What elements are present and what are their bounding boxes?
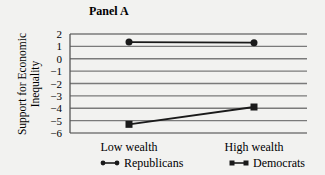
- chart: Panel A Support for Economic Inequality …: [0, 0, 325, 175]
- data-point-republicans: [251, 39, 258, 46]
- chart-title: Panel A: [89, 4, 129, 18]
- legend-marker-square: [230, 161, 235, 166]
- data-point-democrats: [126, 121, 133, 128]
- legend-label-republicans: Republicans: [124, 156, 184, 170]
- x-tick-label: High wealth: [225, 140, 284, 154]
- legend-marker-square: [244, 161, 249, 166]
- series-line-democrats: [129, 107, 254, 124]
- y-tick-label: −1: [50, 65, 62, 77]
- data-point-republicans: [126, 39, 133, 46]
- legend-marker-circle: [115, 161, 120, 166]
- x-tick-label: Low wealth: [101, 140, 158, 154]
- y-axis-label-line-2: Inequality: [29, 60, 42, 107]
- gridlines: [70, 34, 307, 133]
- y-tick-label: −5: [50, 115, 62, 127]
- y-tick-label: −2: [50, 78, 62, 90]
- y-tick-label: −4: [50, 102, 62, 114]
- data-point-democrats: [251, 104, 258, 111]
- y-tick-label: 0: [57, 53, 63, 65]
- x-tick-labels: Low wealthHigh wealth: [101, 140, 284, 154]
- legend: RepublicansDemocrats: [101, 156, 306, 170]
- y-axis-label-line-1: Support for Economic: [16, 33, 29, 135]
- legend-marker-circle: [101, 161, 106, 166]
- legend-label-democrats: Democrats: [253, 156, 305, 170]
- y-axis-label: Support for Economic Inequality: [16, 33, 42, 135]
- series-line-republicans: [129, 42, 254, 43]
- y-tick-label: 2: [57, 28, 63, 40]
- y-tick-label: −3: [50, 90, 62, 102]
- y-tick-label: −6: [50, 127, 62, 139]
- y-tick-labels: 210−1−2−3−4−5−6: [50, 28, 62, 139]
- y-tick-label: 1: [57, 40, 63, 52]
